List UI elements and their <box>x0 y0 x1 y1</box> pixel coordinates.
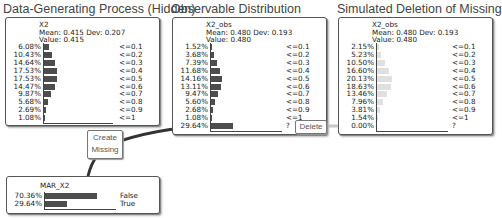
row-bar <box>377 99 383 105</box>
histogram-axis <box>43 43 44 123</box>
create-missing-line1: Create <box>88 132 122 144</box>
histogram-axis <box>210 43 211 131</box>
create-missing-line2: Missing <box>88 144 122 156</box>
histogram-baseline <box>43 123 113 124</box>
row-bar <box>44 60 55 66</box>
histogram-axis <box>376 43 377 131</box>
row-label: True <box>120 200 135 208</box>
row-bar <box>211 99 215 105</box>
row-bar <box>211 107 213 113</box>
row-bar <box>211 68 220 74</box>
row-label: ? <box>286 122 290 130</box>
row-bar <box>377 60 385 66</box>
row-bar <box>211 123 233 129</box>
row-bar <box>377 84 391 90</box>
row-bar <box>377 115 378 121</box>
histogram-baseline <box>376 131 448 132</box>
histogram-row: 1.08%<=1 <box>6 114 159 122</box>
row-bar <box>377 107 380 113</box>
row-bar <box>44 115 45 121</box>
delete-callout: Delete <box>295 120 327 134</box>
row-label: <=1 <box>119 114 136 122</box>
row-bar <box>211 84 221 90</box>
histogram-baseline <box>44 209 116 210</box>
row-bar <box>211 44 212 50</box>
node-x2-obs-deleted[interactable]: X2_obs Mean: 0.480 Dev: 0.193 Value: 0.4… <box>338 17 493 135</box>
row-bar <box>377 68 389 74</box>
node-x2[interactable]: X2 Mean: 0.415 Dev: 0.207 Value: 0.415 6… <box>5 17 160 126</box>
row-percent: 0.00% <box>339 122 374 130</box>
row-label: ? <box>452 122 456 130</box>
row-bar <box>44 99 48 105</box>
row-bar <box>44 91 51 97</box>
row-percent: 29.64% <box>173 122 208 130</box>
row-bar <box>44 84 55 90</box>
row-bar <box>211 115 212 121</box>
row-bar <box>211 91 218 97</box>
histogram-row: 29.64%True <box>7 200 159 208</box>
row-percent: 1.08% <box>6 114 41 122</box>
create-missing-callout: Create Missing <box>87 130 123 159</box>
histogram-axis <box>44 192 45 209</box>
node-mar-x2[interactable]: MAR_X2 70.36%False29.64%True <box>6 176 160 214</box>
row-bar <box>44 52 52 58</box>
delete-label: Delete <box>299 122 322 131</box>
row-bar <box>44 107 46 113</box>
row-bar <box>44 68 57 74</box>
row-bar <box>44 44 49 50</box>
node-mar-x2-name: MAR_X2 <box>40 182 69 190</box>
row-bar <box>211 52 214 58</box>
row-bar <box>377 76 392 82</box>
histogram-baseline <box>210 131 282 132</box>
row-bar <box>377 91 387 97</box>
row-bar <box>377 44 379 50</box>
row-bar <box>45 201 67 207</box>
node-x2-obs[interactable]: X2_obs Mean: 0.480 Dev: 0.193 Value: 0.4… <box>172 17 327 135</box>
row-bar <box>377 52 381 58</box>
row-percent: 29.64% <box>7 200 42 208</box>
row-bar <box>45 193 97 199</box>
histogram-row: 0.00%? <box>339 122 492 130</box>
row-bar <box>211 60 217 66</box>
row-bar <box>44 76 57 82</box>
row-bar <box>211 76 222 82</box>
